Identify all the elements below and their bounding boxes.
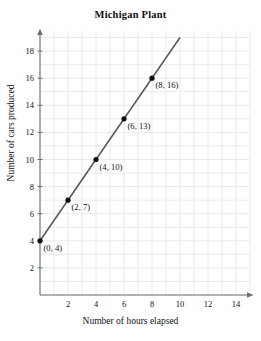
svg-text:10: 10 xyxy=(176,299,185,309)
data-point xyxy=(37,238,42,243)
svg-text:16: 16 xyxy=(26,73,35,83)
data-point-label: (6, 13) xyxy=(128,121,151,131)
chart-container: Michigan Plant 2468101214 24681012141618… xyxy=(0,0,261,341)
grid-lines xyxy=(40,31,250,295)
svg-text:4: 4 xyxy=(94,299,99,309)
svg-text:14: 14 xyxy=(232,299,241,309)
data-point-label: (8, 16) xyxy=(156,80,179,90)
data-point-label: (0, 4) xyxy=(44,243,63,253)
x-axis-ticks: 2468101214 xyxy=(66,299,241,309)
data-point xyxy=(121,116,126,121)
data-point xyxy=(93,157,98,162)
svg-text:2: 2 xyxy=(30,263,34,273)
data-point xyxy=(149,76,154,81)
svg-text:12: 12 xyxy=(26,127,35,137)
svg-text:6: 6 xyxy=(122,299,126,309)
data-point xyxy=(65,198,70,203)
svg-text:8: 8 xyxy=(30,182,34,192)
svg-text:12: 12 xyxy=(204,299,213,309)
svg-text:10: 10 xyxy=(26,155,35,165)
x-axis-label: Number of hours elapsed xyxy=(0,316,261,326)
y-axis-label: Number of cars produced xyxy=(6,58,16,208)
svg-text:14: 14 xyxy=(26,100,35,110)
svg-text:2: 2 xyxy=(66,299,70,309)
data-point-label: (2, 7) xyxy=(72,202,91,212)
svg-text:6: 6 xyxy=(30,209,34,219)
svg-text:8: 8 xyxy=(150,299,154,309)
svg-text:18: 18 xyxy=(26,46,35,56)
plot-area: 2468101214 24681012141618 (0, 4)(2, 7)(4… xyxy=(0,0,261,341)
svg-text:4: 4 xyxy=(30,236,35,246)
data-point-label: (4, 10) xyxy=(100,162,123,172)
